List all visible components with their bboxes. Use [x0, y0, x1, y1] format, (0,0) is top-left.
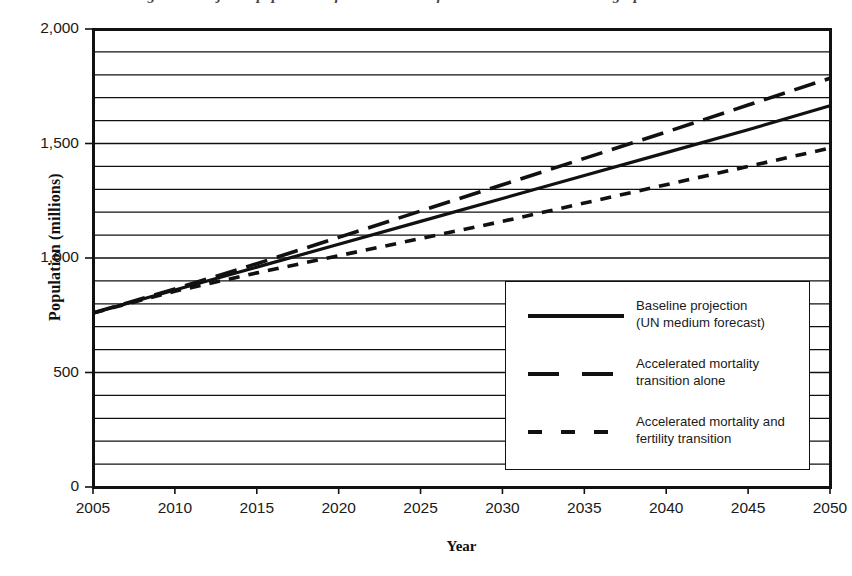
data-series-lines: [93, 78, 830, 313]
legend-label-line2: transition alone: [636, 373, 806, 390]
solid-line-sample: [528, 314, 624, 323]
legend-label-line1: Baseline projection: [636, 298, 806, 315]
legend-label-line1: Accelerated mortality: [636, 356, 806, 373]
chart-legend: Baseline projection(UN medium forecast)A…: [505, 281, 810, 470]
legend-label: Accelerated mortalitytransition alone: [636, 356, 806, 389]
legend-label-line2: (UN medium forecast): [636, 315, 806, 332]
legend-label: Baseline projection(UN medium forecast): [636, 298, 806, 331]
legend-row: Accelerated mortality andfertility trans…: [506, 412, 809, 464]
legend-row: Accelerated mortalitytransition alone: [506, 354, 809, 406]
legend-label-line2: fertility transition: [636, 431, 806, 448]
dotted-line-sample: [528, 430, 624, 434]
dashed-line-sample: [528, 372, 624, 376]
legend-label-line1: Accelerated mortality and: [636, 414, 806, 431]
legend-row: Baseline projection(UN medium forecast): [506, 296, 809, 348]
legend-label: Accelerated mortality andfertility trans…: [636, 414, 806, 447]
series-line: [93, 78, 830, 313]
